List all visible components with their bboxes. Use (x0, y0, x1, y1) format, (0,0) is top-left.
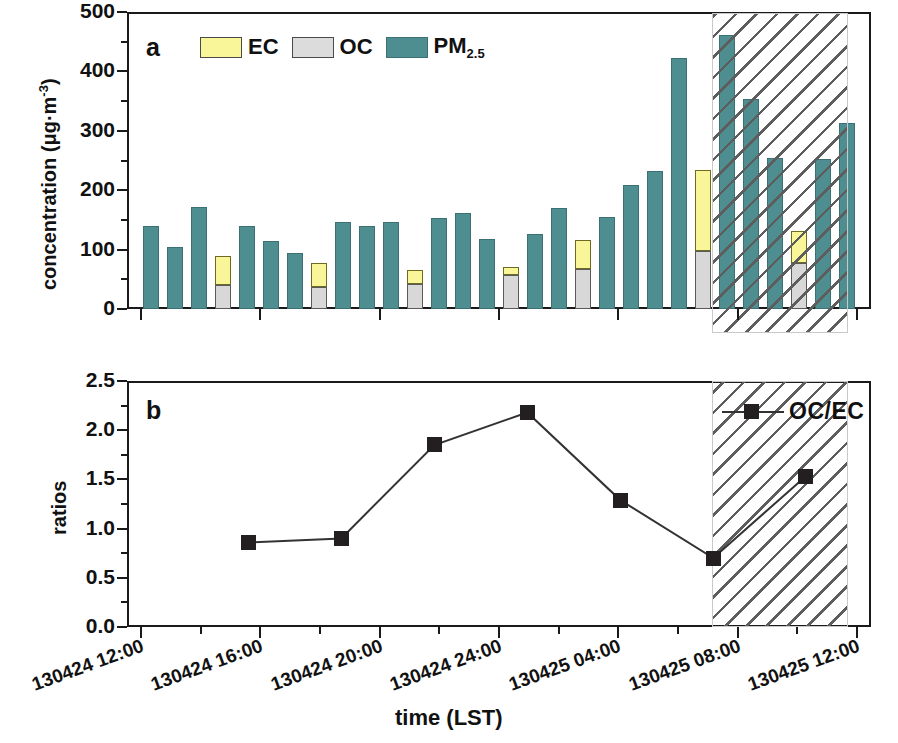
panel-a-y-tick-label: 400 (39, 58, 115, 82)
panel-b-y-tick-label: 1.0 (31, 516, 115, 540)
panel-b-x-tick (617, 627, 619, 638)
bar-pm25 (527, 234, 542, 309)
panel-a-x-tick (737, 309, 739, 320)
bar-pm25 (767, 158, 782, 309)
legend-item-ec: EC (200, 34, 279, 60)
bar-segment-oc (695, 251, 710, 309)
bar-segment-oc (791, 263, 806, 309)
panel-b-y-minor-tick (121, 601, 127, 603)
panel-b-letter: b (146, 396, 161, 425)
panel-b-y-tick (117, 380, 127, 382)
panel-b-y-tick (117, 478, 127, 480)
panel-b-x-tick (259, 627, 261, 638)
panel-a-y-tick-label: 500 (39, 0, 115, 23)
panel-a-letter: a (146, 33, 160, 62)
bar-segment-oc (407, 284, 422, 309)
x-tick-label: 130424 12:00 (29, 635, 147, 696)
bar-pm25 (167, 247, 182, 309)
bar-pm25 (335, 222, 350, 309)
bar-segment-oc (503, 275, 518, 309)
bar-segment-ec (407, 270, 422, 284)
panel-b-y-tick-label: 0.5 (31, 565, 115, 589)
legend-item-oc: OC (292, 34, 373, 60)
ocec-data-point-marker (706, 551, 721, 566)
panel-b-y-tick-label: 1.5 (31, 466, 115, 490)
x-tick-label: 130424 16:00 (148, 635, 266, 696)
bar-pm25 (191, 207, 206, 309)
bar-pm25 (623, 185, 638, 309)
bar-pm25 (455, 213, 470, 309)
legend-label-pm25: PM2.5 (434, 33, 485, 61)
legend-label-pm25-main: PM (434, 33, 467, 58)
x-tick-label: 130424 20:00 (268, 635, 386, 696)
figure-root: concentration (μg·m-3) a EC OC PM2.5 010… (0, 0, 898, 743)
bar-pm25 (431, 218, 446, 309)
bar-segment-ec (695, 170, 710, 251)
panel-a-y-minor-tick (121, 100, 127, 102)
panel-a-y-tick (117, 70, 127, 72)
panel-b-y-tick-label: 2.0 (31, 417, 115, 441)
legend-label-ocec: OC/EC (789, 398, 864, 425)
panel-b-y-tick (117, 429, 127, 431)
x-tick-label: 130424 24:00 (387, 635, 505, 696)
panel-a-y-tick-label: 300 (39, 118, 115, 142)
panel-a-x-tick (140, 309, 142, 320)
legend-marker-ocec-icon (744, 404, 759, 419)
bar-pm25 (383, 222, 398, 309)
ocec-data-point-marker (520, 405, 535, 420)
panel-a-x-tick (617, 309, 619, 320)
panel-b-y-tick (117, 528, 127, 530)
bar-pm25 (239, 226, 254, 309)
panel-a-x-tick (379, 309, 381, 320)
panel-b-x-tick (856, 627, 858, 638)
panel-b-x-tick (498, 627, 500, 638)
panel-a-y-tick-label: 0 (39, 296, 115, 320)
panel-b-y-minor-tick (121, 503, 127, 505)
bar-pm25 (551, 208, 566, 309)
ocec-data-point-marker (613, 493, 628, 508)
panel-b-x-tick (140, 627, 142, 638)
panel-a-y-tick-label: 200 (39, 177, 115, 201)
panel-a-y-tick (117, 189, 127, 191)
legend-swatch-pm25-icon (386, 37, 428, 58)
panel-b-y-minor-tick (121, 552, 127, 554)
panel-a-legend: EC OC PM2.5 (200, 33, 485, 61)
bar-pm25 (599, 217, 614, 309)
ocec-data-point-marker (798, 469, 813, 484)
bar-pm25 (839, 123, 854, 309)
panel-b-x-minor-tick (438, 627, 440, 634)
panel-b-y-tick-label: 2.5 (31, 368, 115, 392)
bar-segment-ec (575, 240, 590, 270)
bar-pm25 (479, 239, 494, 309)
x-tick-label: 130425 12:00 (745, 635, 863, 696)
y-label-exponent: -3 (36, 85, 51, 97)
legend-label-oc: OC (340, 34, 373, 60)
panel-a-x-tick (498, 309, 500, 320)
panel-a-y-tick-label: 100 (39, 237, 115, 261)
panel-a-y-minor-tick (121, 278, 127, 280)
bar-segment-oc (575, 269, 590, 309)
panel-a-y-tick (117, 11, 127, 13)
panel-b-y-minor-tick (121, 405, 127, 407)
panel-a-y-tick (117, 130, 127, 132)
ocec-data-point-marker (334, 531, 349, 546)
legend-line-ocec-icon (722, 411, 784, 413)
panel-a-x-tick (856, 309, 858, 320)
bar-pm25 (671, 58, 686, 309)
bar-segment-ec (791, 231, 806, 262)
panel-a-y-minor-tick (121, 41, 127, 43)
panel-b-x-minor-tick (558, 627, 560, 634)
panel-b-y-tick-label: 0.0 (31, 614, 115, 638)
bar-segment-ec (311, 263, 326, 287)
legend-label-ec: EC (248, 34, 279, 60)
bar-pm25 (263, 241, 278, 309)
panel-a-y-tick (117, 249, 127, 251)
x-tick-label: 130425 08:00 (626, 635, 744, 696)
bar-segment-oc (215, 285, 230, 309)
panel-b-x-minor-tick (796, 627, 798, 634)
bar-segment-ec (503, 267, 518, 275)
panel-a-x-tick (259, 309, 261, 320)
bar-segment-ec (215, 256, 230, 285)
bar-pm25 (719, 35, 734, 309)
ocec-data-point-marker (241, 535, 256, 550)
